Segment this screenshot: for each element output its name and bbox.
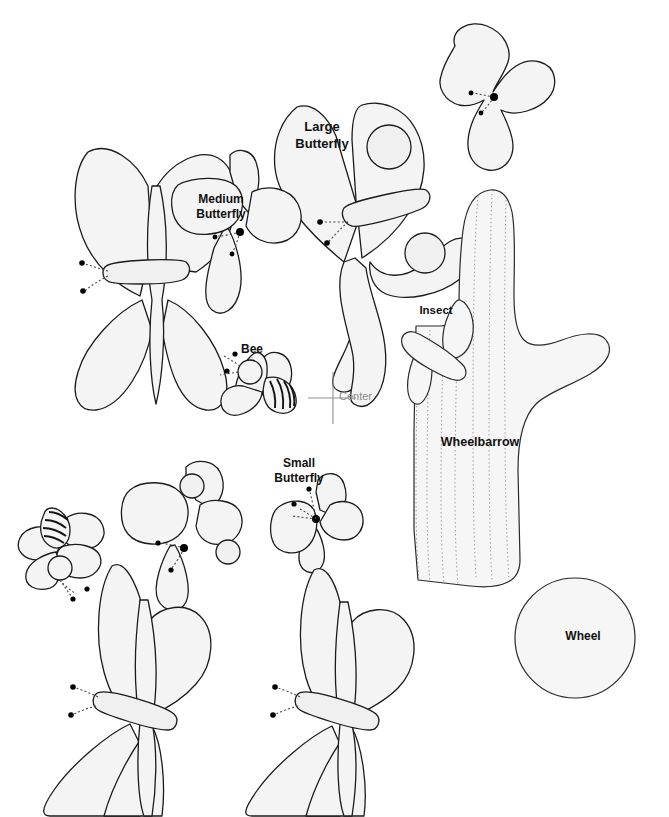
wheel-label: Wheel [565, 629, 600, 643]
medium-butterfly-body-bar[interactable] [103, 260, 190, 284]
large-butterfly-label-line2: Butterfly [295, 136, 349, 151]
bl-butterfly-antenna-dot-1 [70, 684, 76, 690]
center-mark-label: Center [339, 390, 372, 402]
medium-butterfly-antenna-dot-1 [79, 260, 85, 266]
pattern-canvas: Large Butterfly Medium Butterfly [0, 0, 669, 817]
medium-butterfly-small-right-wing[interactable] [246, 188, 301, 243]
br-butterfly-antenna-dot-1 [272, 684, 278, 690]
bee-label: Bee [241, 342, 263, 356]
butterfly-circles-upper-left[interactable] [121, 483, 188, 544]
bee-bl-head [48, 556, 72, 580]
large-butterfly-label-line1: Large [304, 119, 339, 134]
large-butterfly-hole-upper [367, 125, 411, 169]
large-butterfly-antenna-dot-2 [324, 240, 330, 246]
pattern-sheet: Large Butterfly Medium Butterfly [0, 0, 669, 817]
medium-butterfly-center-dot [236, 228, 244, 236]
bee-bl-antenna-dot-2 [84, 586, 89, 591]
br-butterfly-antenna-dot-2 [270, 712, 276, 718]
butterfly-circles-hole-lower [216, 540, 240, 564]
bee-antenna-dot-2 [224, 368, 229, 373]
insect-label: Insect [419, 304, 452, 316]
medium-butterfly-label-dot-2 [230, 252, 235, 257]
medium-butterfly-label-line2: Butterfly [196, 207, 246, 221]
bee-head [238, 360, 262, 384]
small-butterfly-label-line2: Butterfly [274, 471, 324, 485]
large-butterfly-antenna-dot-1 [317, 219, 323, 225]
medium-butterfly-label-dot-1 [213, 235, 218, 240]
large-butterfly-hole-lower [405, 233, 445, 273]
bee-antenna-dot-1 [232, 351, 237, 356]
medium-butterfly-label-line1: Medium [198, 192, 243, 206]
butterfly-circles-hole-upper [180, 474, 204, 498]
bee-bl-antenna-dot-1 [70, 596, 75, 601]
butterfly-circles-center-dot [180, 544, 188, 552]
butterfly-circles-dot-2 [168, 567, 173, 572]
medium-butterfly-antenna-dot-2 [80, 288, 86, 294]
small-butterfly-label-line1: Small [283, 456, 315, 470]
butterfly-top-right-center-dot [490, 93, 498, 101]
butterfly-top-right-antenna-dot-1 [469, 91, 474, 96]
bl-butterfly-antenna-dot-2 [68, 712, 74, 718]
small-butterfly-antenna-dot-1 [306, 486, 311, 491]
piece-wheel[interactable]: Wheel [515, 578, 635, 698]
butterfly-top-right-antenna-dot-2 [479, 111, 484, 116]
butterfly-circles-right-wing[interactable] [196, 501, 242, 545]
butterfly-circles-dot-1 [155, 540, 160, 545]
small-butterfly-antenna-dot-2 [291, 501, 296, 506]
wheelbarrow-label: Wheelbarrow [441, 435, 520, 449]
